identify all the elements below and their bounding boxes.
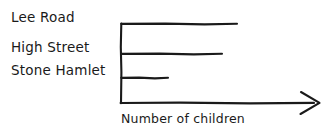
category-label-stone-hamlet: Stone Hamlet — [11, 63, 106, 77]
x-axis-line — [121, 103, 314, 104]
bar-lee-road — [121, 24, 237, 25]
category-label-lee-road: Lee Road — [11, 10, 75, 24]
bar-stone-hamlet — [121, 78, 168, 79]
bar-chart-figure: Lee Road High Street Stone Hamlet Number… — [0, 0, 331, 135]
y-axis-line — [121, 24, 122, 104]
x-axis-label: Number of children — [121, 112, 245, 125]
bar-high-street — [121, 54, 222, 55]
category-label-high-street: High Street — [11, 40, 90, 54]
